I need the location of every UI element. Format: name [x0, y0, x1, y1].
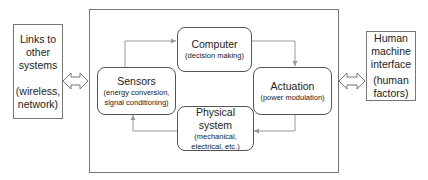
- links-to-other-systems-box: Links to other systems (wireless, networ…: [13, 24, 63, 119]
- left-line-5: (wireless,: [16, 85, 60, 98]
- human-machine-interface-box: Human machine interface (human factors): [366, 31, 416, 101]
- sensors-subtitle-1: (energy conversion,: [104, 88, 170, 98]
- right-line-2: machine: [371, 45, 411, 58]
- sensors-title: Sensors: [117, 75, 156, 88]
- right-line-6: factors): [373, 87, 408, 100]
- right-line-5: (human: [373, 74, 409, 87]
- right-line-1: Human: [374, 32, 408, 45]
- actuation-title: Actuation: [271, 80, 315, 93]
- sensors-node: Sensors (energy conversion, signal condi…: [97, 67, 176, 115]
- physical-title: Physical system: [178, 106, 253, 132]
- physical-system-node: Physical system (mechanical, electrical,…: [177, 106, 254, 151]
- sensors-subtitle-2: signal conditioning): [104, 98, 168, 108]
- computer-subtitle: (decision making): [185, 51, 244, 61]
- actuation-node: Actuation (power modulation): [253, 67, 332, 115]
- left-line-3: systems: [19, 59, 58, 72]
- computer-title: Computer: [191, 38, 237, 51]
- left-line-2: other: [26, 46, 50, 59]
- left-line-1: Links to: [20, 33, 56, 46]
- right-line-3: interface: [371, 58, 411, 71]
- left-line-6: network): [18, 98, 58, 111]
- actuation-subtitle: (power modulation): [260, 93, 324, 103]
- computer-node: Computer (decision making): [177, 27, 252, 72]
- physical-subtitle-1: (mechanical,: [194, 132, 237, 142]
- physical-subtitle-2: electrical, etc.): [191, 142, 239, 152]
